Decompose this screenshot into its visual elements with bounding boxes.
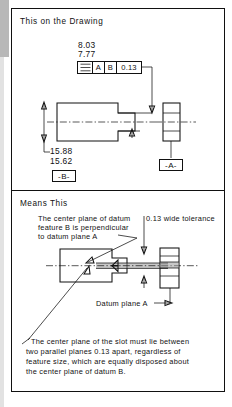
slot-center-plane-note-line-4: the center plane of datum B. (26, 367, 126, 376)
slot-center-plane-note-line-3: feature size, which are equally disposed… (26, 357, 189, 366)
slot-center-plane-note-line-1: The center plane of the slot must lie be… (31, 337, 189, 346)
slot-center-plane-note-line-2: two parallel planes 0.13 apart, regardle… (26, 347, 181, 356)
figure-page: This on the Drawing 8.03 7.77 A B 0.13 (0, 0, 232, 407)
